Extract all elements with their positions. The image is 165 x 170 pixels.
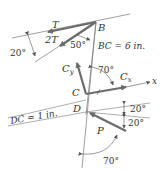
member-bc-side bbox=[86, 22, 96, 115]
label-d: D bbox=[72, 103, 81, 114]
label-angle-70-top: 70° bbox=[98, 65, 114, 75]
label-2t: 2T bbox=[44, 34, 59, 45]
label-angle-50: 50° bbox=[70, 40, 86, 50]
label-x-axis: x bbox=[152, 76, 157, 86]
label-cy: Cy bbox=[62, 63, 75, 76]
label-b: B bbox=[97, 22, 105, 33]
force-cx bbox=[86, 87, 126, 94]
label-c: C bbox=[72, 87, 80, 98]
angle-arc-20-left bbox=[28, 35, 35, 56]
rigid-body-diagram: T 2T B 50° BC = 6 in. 20° Cy 70° Cx x C … bbox=[0, 0, 165, 170]
label-angle-20-lower: 20° bbox=[128, 118, 144, 128]
label-angle-70-bottom: 70° bbox=[103, 156, 119, 166]
force-p bbox=[90, 113, 126, 131]
label-angle-20-left: 20° bbox=[10, 48, 26, 58]
angle-arc-70-bottom bbox=[82, 135, 117, 154]
label-bc-length: BC = 6 in. bbox=[97, 41, 145, 51]
upper-reference-line bbox=[12, 14, 130, 38]
label-cx: Cx bbox=[120, 71, 132, 84]
label-dc-length: DC = 1 in. bbox=[9, 108, 59, 126]
label-angle-20-upper: 20° bbox=[130, 104, 146, 114]
label-p: P bbox=[96, 125, 104, 136]
